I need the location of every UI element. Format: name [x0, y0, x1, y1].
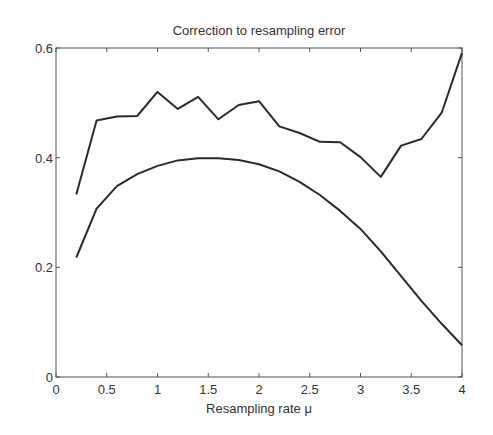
x-tick-label: 4	[458, 382, 465, 397]
series-group	[76, 53, 462, 345]
y-axis: 00.20.40.6	[35, 41, 462, 385]
series-line-1	[76, 158, 462, 345]
y-tick-label: 0.6	[35, 41, 53, 56]
x-tick-label: 1.5	[199, 382, 217, 397]
x-tick-label: 2.5	[301, 382, 319, 397]
x-tick-label: 0	[52, 382, 59, 397]
line-chart: Correction to resampling error 00.511.52…	[0, 0, 493, 435]
plot-frame	[56, 48, 462, 377]
x-tick-label: 3.5	[402, 382, 420, 397]
x-axis-label: Resampling rate μ	[206, 401, 312, 416]
chart-title: Correction to resampling error	[173, 23, 346, 38]
x-tick-label: 2	[255, 382, 262, 397]
series-line-0	[76, 53, 462, 195]
y-tick-label: 0	[46, 370, 53, 385]
x-tick-label: 1	[154, 382, 161, 397]
y-tick-label: 0.4	[35, 151, 53, 166]
x-tick-label: 3	[357, 382, 364, 397]
x-tick-label: 0.5	[98, 382, 116, 397]
y-tick-label: 0.2	[35, 260, 53, 275]
